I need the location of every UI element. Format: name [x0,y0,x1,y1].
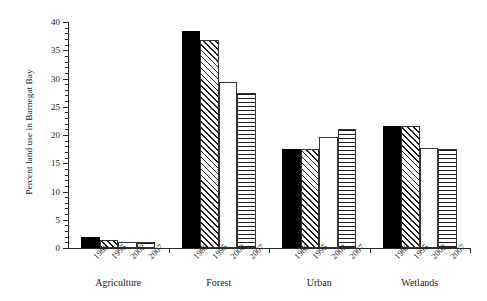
bar-wetlands-2002 [420,148,439,248]
y-tick-minor [65,73,68,74]
group-label-wetlands: Wetlands [370,277,471,288]
group-label-urban: Urban [269,277,370,288]
y-tick-minor [65,197,68,198]
y-tick-minor [65,129,68,130]
x-axis-separator-tick [169,248,170,253]
y-tick-minor [65,95,68,96]
bar-urban-2002 [319,137,338,248]
y-tick-minor [65,56,68,57]
y-tick-label: 0 [56,244,61,253]
bar-forest-1995 [200,40,219,248]
bar-urban-1995 [301,149,320,248]
y-tick-minor [65,118,68,119]
y-tick-minor [65,141,68,142]
y-tick-label: 30 [51,74,60,83]
plot-area: 0510152025303540 [68,22,470,248]
y-tick-minor [65,33,68,34]
bar-urban-1986 [282,149,301,248]
bar-chart: Percent land use in Barnegat Bay 0510152… [0,0,487,301]
y-axis-title: Percent land use in Barnegat Bay [24,32,34,232]
y-axis-line [68,22,69,249]
y-tick-minor [65,242,68,243]
y-tick-major [63,192,68,193]
y-tick-minor [65,45,68,46]
group-label-agriculture: Agriculture [68,277,169,288]
y-tick-major [63,220,68,221]
group-label-forest: Forest [169,277,270,288]
y-tick-minor [65,90,68,91]
y-tick-minor [65,158,68,159]
y-tick-major [63,163,68,164]
y-tick-label: 35 [51,46,60,55]
y-tick-label: 40 [51,18,60,27]
y-tick-major [63,107,68,108]
y-tick-minor [65,124,68,125]
y-tick-major [63,22,68,23]
y-tick-minor [65,214,68,215]
y-tick-minor [65,231,68,232]
y-tick-minor [65,146,68,147]
y-tick-minor [65,186,68,187]
y-tick-minor [65,169,68,170]
x-axis-separator-tick [370,248,371,253]
bar-urban-2007 [338,129,357,248]
y-tick-major [63,135,68,136]
y-tick-minor [65,28,68,29]
y-tick-major [63,79,68,80]
y-tick-major [63,248,68,249]
y-tick-minor [65,67,68,68]
x-axis-separator-tick [269,248,270,253]
y-tick-minor [65,203,68,204]
y-tick-label: 5 [56,215,61,224]
y-tick-minor [65,84,68,85]
y-tick-label: 15 [51,159,60,168]
y-tick-minor [65,225,68,226]
y-tick-minor [65,62,68,63]
y-tick-label: 20 [51,131,60,140]
y-tick-minor [65,152,68,153]
bar-forest-2007 [237,93,256,248]
y-tick-minor [65,237,68,238]
bar-wetlands-1986 [383,126,402,248]
bar-forest-1986 [182,31,201,248]
y-tick-minor [65,208,68,209]
x-axis-separator-tick [470,248,471,253]
y-tick-minor [65,112,68,113]
bar-wetlands-2007 [438,149,457,248]
bar-wetlands-1995 [401,126,420,248]
y-tick-label: 10 [51,187,60,196]
y-tick-major [63,50,68,51]
y-tick-minor [65,39,68,40]
y-tick-minor [65,175,68,176]
y-tick-label: 25 [51,102,60,111]
bar-forest-2002 [219,82,238,248]
y-tick-minor [65,180,68,181]
y-tick-minor [65,101,68,102]
